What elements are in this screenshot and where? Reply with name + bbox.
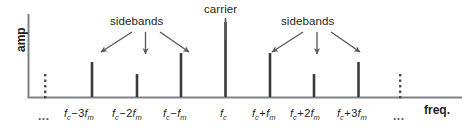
fm-spectrum-figure: amp freq. sidebands carrier sidebands ..… <box>0 0 467 133</box>
arrow-to-minus-1fm <box>160 32 189 52</box>
tick-term-modulation: fm <box>310 107 319 119</box>
x-axis-label: freq. <box>424 104 450 116</box>
sidebands-left-arrows <box>101 32 189 54</box>
tick-label-plus-3fm: fc+3fm <box>337 108 367 119</box>
tick-term-modulation: fm <box>177 107 186 119</box>
tick-term-base: fc <box>337 107 344 119</box>
tick-term-base: fc <box>112 107 119 119</box>
tick-term-modulation: fm <box>357 107 366 119</box>
sidebands-right-label: sidebands <box>281 16 334 28</box>
tick-term-modulation: fm <box>266 107 275 119</box>
tick-term-base: fc <box>163 107 170 119</box>
tick-label-minus-1fm: fc−fm <box>163 108 187 119</box>
tick-term-base: fc <box>64 107 71 119</box>
tick-label-carrier: fc <box>220 108 227 119</box>
carrier-label: carrier <box>204 4 237 16</box>
sidebands-left-label: sidebands <box>110 16 163 28</box>
tick-label-minus-2fm: fc−2fm <box>112 108 142 119</box>
y-axis-label: amp <box>15 27 27 52</box>
tick-label-plus-2fm: fc+2fm <box>290 108 320 119</box>
tick-term-modulation: fm <box>84 107 93 119</box>
sidebands-right-arrows <box>272 32 360 54</box>
tick-term-modulation: fm <box>132 107 141 119</box>
arrow-to-plus-3fm <box>331 32 360 52</box>
tick-label-minus-3fm: fc−3fm <box>64 108 94 119</box>
tick-term-base: fc <box>290 107 297 119</box>
tick-label-plus-1fm: fc+fm <box>252 108 276 119</box>
tick-term-base: fc <box>220 107 227 119</box>
ellipsis-left: ... <box>38 110 50 122</box>
arrow-to-minus-3fm <box>101 32 132 52</box>
ellipsis-right: ... <box>393 110 405 122</box>
continuation-dots-right <box>399 74 401 98</box>
continuation-dots-left <box>44 74 46 98</box>
arrow-to-plus-1fm <box>272 32 303 52</box>
tick-term-base: fc <box>252 107 259 119</box>
